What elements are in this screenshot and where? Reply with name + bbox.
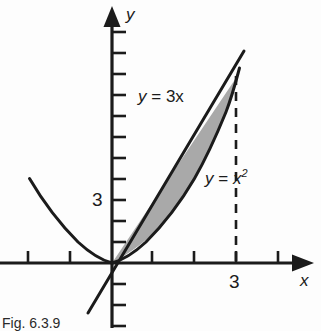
line-equation-label: y = 3x <box>138 88 184 105</box>
parabola-equation-equals: = <box>218 169 228 188</box>
x-axis-arrowhead <box>292 255 314 272</box>
parabola-equation-variable: y <box>205 169 214 188</box>
y-axis-label: y <box>126 6 135 23</box>
parabola-equation-exponent: 2 <box>241 167 247 179</box>
line-equation-rhs: 3x <box>166 87 184 106</box>
line-equation-equals: = <box>151 87 161 106</box>
parabola-equation-label: y = x2 <box>205 168 248 187</box>
x-axis-label: x <box>300 272 309 289</box>
x-axis-ticks <box>28 251 278 263</box>
y-axis-ticks <box>112 32 126 242</box>
y-axis-ticks-negative <box>112 284 126 326</box>
y-axis-tick-label-3: 3 <box>92 190 103 209</box>
y-axis-arrowhead <box>104 6 121 27</box>
x-axis-tick-label-3: 3 <box>229 272 240 291</box>
figure-caption: Fig. 6.3.9 <box>2 316 60 330</box>
line-equation-variable: y <box>138 87 147 106</box>
